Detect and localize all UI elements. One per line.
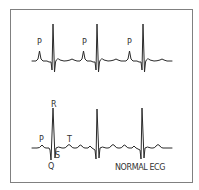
p-wave-label: P	[39, 135, 44, 144]
upper-p-label-2: P	[82, 38, 87, 47]
r-wave-label: R	[51, 100, 57, 109]
lower-ecg-trace	[32, 108, 172, 160]
upper-ecg-trace	[32, 24, 172, 72]
upper-p-label-3: P	[127, 38, 132, 47]
upper-p-label-1: P	[37, 38, 42, 47]
diagram-frame	[11, 10, 193, 183]
q-wave-label: Q	[48, 162, 54, 171]
s-wave-label: S	[55, 151, 60, 160]
t-wave-label: T	[66, 135, 72, 144]
ecg-diagram: P P P P R T S Q NORMAL ECG	[0, 0, 199, 190]
diagram-caption: NORMAL ECG	[115, 163, 165, 172]
